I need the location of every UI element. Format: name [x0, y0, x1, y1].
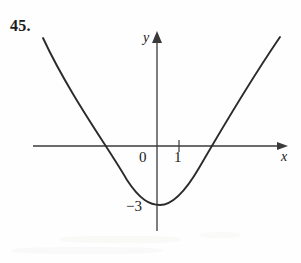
x-axis-label: x [281, 150, 287, 164]
figure-container: 45. y x 0 1 −3 [0, 0, 301, 263]
y-vertex-label: −3 [126, 199, 142, 214]
y-axis-label: y [143, 31, 149, 45]
x-tick-label-1: 1 [174, 150, 182, 165]
origin-label: 0 [139, 150, 147, 165]
y-axis-arrowhead [152, 31, 162, 43]
graph-canvas [0, 0, 301, 263]
parabola-curve [43, 37, 280, 205]
problem-number: 45. [10, 18, 31, 34]
